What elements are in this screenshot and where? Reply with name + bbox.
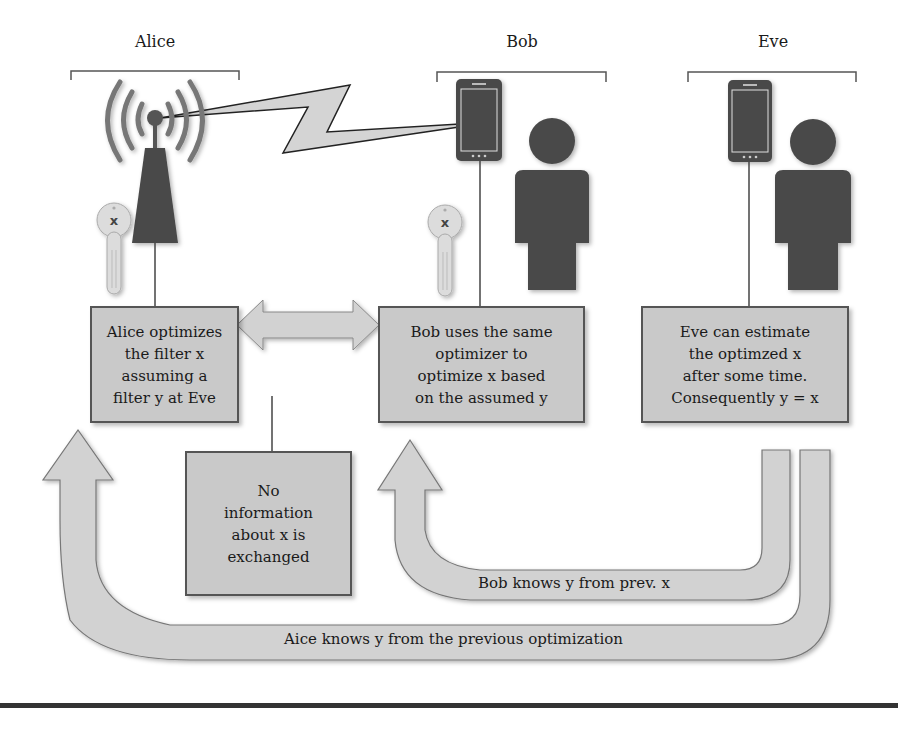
eve-label: Eve [738,32,808,51]
bob-key-label: x [441,215,450,230]
alice-feedback-caption: Aice knows y from the previous optimizat… [284,630,623,648]
alice-key-label: x [110,213,119,228]
no-information-box: No information about x is exchanged [185,451,352,596]
eve-process-box: Eve can estimate the optimzed x after so… [641,306,849,423]
bob-process-box: Bob uses the same optimizer to optimize … [378,306,585,423]
wireless-link-bolt [160,85,493,153]
alice-label: Alice [120,32,190,51]
eve-smartphone-icon [728,80,772,162]
alice-feedback-arrow [43,430,830,660]
alice-process-text: Alice optimizes the filter x assuming a … [107,321,222,409]
eve-process-text: Eve can estimate the optimzed x after so… [671,321,819,409]
eve-bracket [688,72,856,82]
no-information-text: No information about x is exchanged [224,480,313,568]
bottom-rule [0,703,898,708]
bob-feedback-caption: Bob knows y from prev. x [478,574,670,592]
no-exchange-double-arrow [237,300,379,350]
bob-process-text: Bob uses the same optimizer to optimize … [410,321,552,409]
alice-process-box: Alice optimizes the filter x assuming a … [90,306,239,423]
eve-person-icon [775,119,851,290]
alice-bracket [71,71,239,80]
bob-label: Bob [487,32,557,51]
bob-person-icon [515,118,589,290]
bob-smartphone-icon [456,79,502,161]
